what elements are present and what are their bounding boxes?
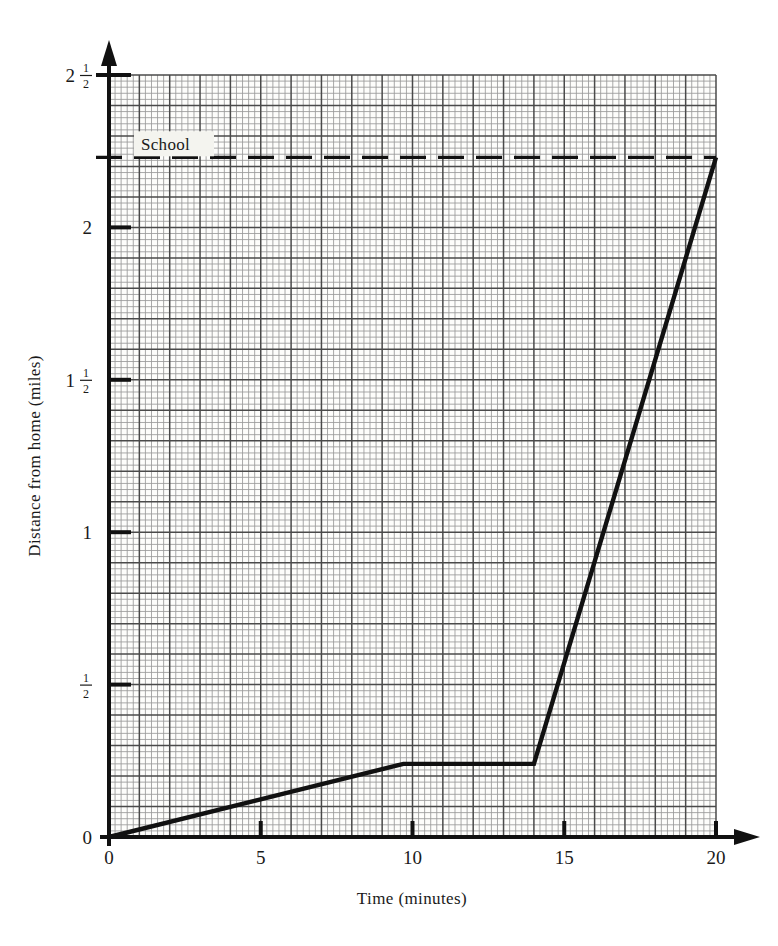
x-tick-label-10: 10 bbox=[403, 847, 422, 868]
distance-time-graph: School 05101520 01211212122 Time (minute… bbox=[0, 0, 778, 946]
y-tick-label-group: 1 bbox=[83, 522, 93, 543]
y-tick-label-group: 2 bbox=[83, 217, 93, 238]
y-tick-whole-number: 1 bbox=[66, 370, 76, 391]
fraction-denominator: 2 bbox=[83, 382, 89, 396]
y-tick-whole-number: 0 bbox=[83, 827, 93, 848]
chart-container: School 05101520 01211212122 Time (minute… bbox=[0, 0, 778, 946]
x-axis-title: Time (minutes) bbox=[357, 889, 467, 908]
x-tick-label-5: 5 bbox=[256, 847, 266, 868]
fraction-numerator: 1 bbox=[83, 671, 89, 685]
fraction-denominator: 2 bbox=[83, 687, 89, 701]
y-axis-title: Distance from home (miles) bbox=[25, 355, 44, 557]
x-tick-label-15: 15 bbox=[555, 847, 574, 868]
x-tick-label-0: 0 bbox=[104, 847, 114, 868]
fraction-numerator: 1 bbox=[83, 61, 89, 75]
y-tick-whole-number: 1 bbox=[83, 522, 93, 543]
y-tick-whole-number: 2 bbox=[83, 217, 93, 238]
fraction-numerator: 1 bbox=[83, 366, 89, 380]
school-label: School bbox=[141, 135, 190, 154]
x-tick-label-20: 20 bbox=[707, 847, 726, 868]
y-tick-label-group: 0 bbox=[83, 827, 93, 848]
y-tick-whole-number: 2 bbox=[66, 65, 76, 86]
fraction-denominator: 2 bbox=[83, 77, 89, 91]
